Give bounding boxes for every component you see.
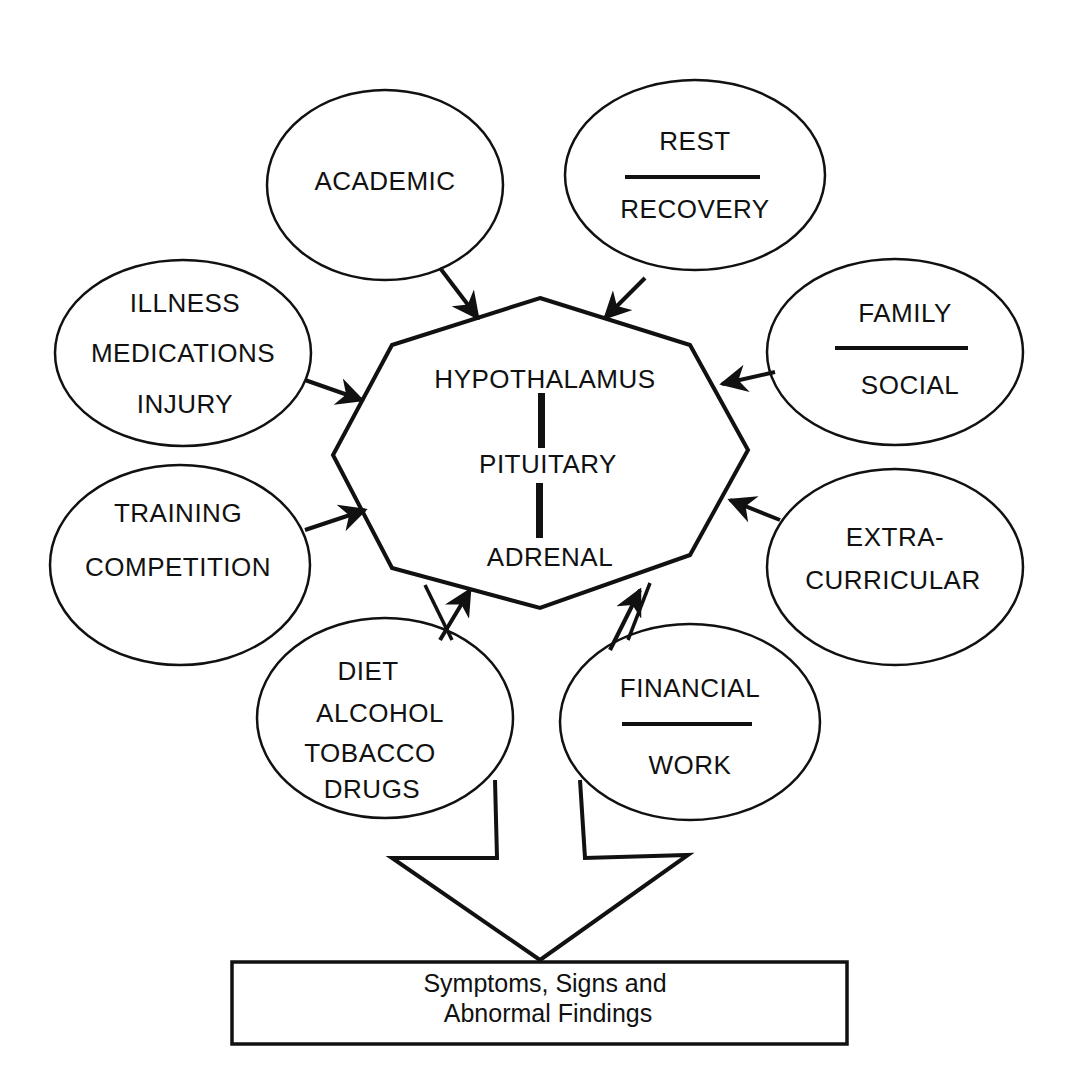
factor-label: CURRICULAR <box>805 565 980 595</box>
factor-family-social: FAMILY SOCIAL <box>767 259 1023 445</box>
connector-bar <box>538 393 545 448</box>
factor-label: INJURY <box>137 389 233 419</box>
factor-financial-work: FINANCIAL WORK <box>560 624 820 820</box>
center-label-adrenal: ADRENAL <box>487 542 613 572</box>
factor-label: TOBACCO <box>304 738 436 768</box>
factor-label: ALCOHOL <box>316 698 444 728</box>
factor-label: EXTRA- <box>846 522 944 552</box>
factor-label: ILLNESS <box>130 288 240 318</box>
connector-bar <box>536 483 543 538</box>
factor-academic: ACADEMIC <box>267 90 503 280</box>
outcome-label-line2: Abnormal Findings <box>444 999 652 1027</box>
factor-diet: DIET ALCOHOL TOBACCO DRUGS <box>257 618 513 818</box>
factor-label: FAMILY <box>858 298 952 328</box>
factor-label: ACADEMIC <box>314 166 455 196</box>
factor-label: SOCIAL <box>861 370 959 400</box>
factor-label: COMPETITION <box>85 552 271 582</box>
factor-label: TRAINING <box>114 498 242 528</box>
outcome-label-line1: Symptoms, Signs and <box>423 969 666 997</box>
center-label-hypothalamus: HYPOTHALAMUS <box>434 364 655 394</box>
factor-label: FINANCIAL <box>620 673 760 703</box>
factor-extracurricular: EXTRA- CURRICULAR <box>767 469 1023 665</box>
factor-label: REST <box>659 126 730 156</box>
center-label-pituitary: PITUITARY <box>479 449 617 479</box>
factor-rest-recovery: REST RECOVERY <box>565 80 825 270</box>
factor-label: RECOVERY <box>620 194 769 224</box>
factor-label: DRUGS <box>324 774 420 804</box>
factor-illness: ILLNESS MEDICATIONS INJURY <box>55 260 311 446</box>
factor-training: TRAINING COMPETITION <box>50 465 310 665</box>
factor-label: WORK <box>649 750 732 780</box>
factor-label: MEDICATIONS <box>91 338 275 368</box>
stress-factors-diagram: ACADEMIC REST RECOVERY FAMILY SOCIAL EXT… <box>0 0 1081 1088</box>
factor-label: DIET <box>337 656 398 686</box>
